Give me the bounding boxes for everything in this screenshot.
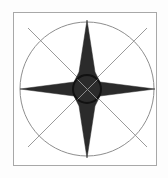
compass-rose-figure — [0, 0, 168, 178]
compass-rose-canvas — [0, 0, 168, 178]
